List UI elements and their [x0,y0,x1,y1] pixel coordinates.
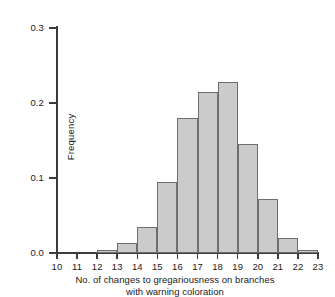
x-axis-title-line-1: No. of changes to gregariousness on bran… [75,274,274,285]
x-tick-11 [76,253,78,259]
y-tick-0.3 [49,27,57,29]
bar-20 [258,199,278,253]
y-tick-label-0.1: 0.1 [4,173,44,183]
y-tick-label-0.0: 0.0 [4,248,44,258]
histogram-figure: 0.00.10.20.3 101112131415161718192021222… [0,0,335,297]
y-tick-0.1 [49,177,57,179]
x-tick-19 [237,253,239,259]
x-tick-18 [217,253,219,259]
x-tick-21 [277,253,279,259]
bar-14 [137,227,157,253]
x-tick-15 [157,253,159,259]
bar-21 [278,238,298,253]
bar-16 [177,118,197,253]
x-tick-12 [96,253,98,259]
x-tick-10 [56,253,58,259]
x-tick-14 [137,253,139,259]
y-tick-label-0.3: 0.3 [4,23,44,33]
x-axis-title-line-2: with warning coloration [30,286,320,297]
bar-12 [97,250,117,253]
y-axis-title: Frequency [66,77,76,197]
x-tick-22 [297,253,299,259]
x-axis-title: No. of changes to gregariousness on bran… [30,274,320,297]
x-tick-label-23: 23 [306,262,330,272]
x-tick-13 [116,253,118,259]
plot-area: Frequency [57,28,318,253]
x-tick-17 [197,253,199,259]
bar-15 [157,182,177,253]
bar-17 [198,92,218,253]
y-tick-0.2 [49,102,57,104]
x-tick-23 [317,253,319,259]
bar-22 [298,250,318,253]
y-tick-label-0.2: 0.2 [4,98,44,108]
bar-13 [117,243,137,254]
x-tick-20 [257,253,259,259]
x-tick-16 [177,253,179,259]
bar-18 [218,82,238,253]
bar-19 [238,144,258,253]
